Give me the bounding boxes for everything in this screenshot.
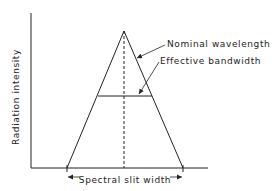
slit-function-triangle <box>67 31 183 168</box>
y-axis-label: Radiation intensity <box>11 49 21 145</box>
slit-function-diagram: Nominal wavelength Effective bandwidth S… <box>0 0 277 191</box>
effective-bandwidth-label: Effective bandwidth <box>160 56 261 66</box>
spectral-slit-width-label: Spectral slit width <box>79 175 171 185</box>
diagram-svg: Nominal wavelength Effective bandwidth S… <box>0 0 277 191</box>
nominal-wavelength-label: Nominal wavelength <box>167 39 270 49</box>
